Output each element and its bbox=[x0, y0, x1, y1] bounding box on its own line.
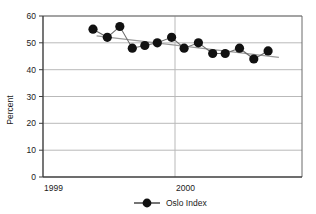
data-point bbox=[235, 44, 244, 53]
data-point bbox=[103, 33, 112, 42]
data-point bbox=[208, 49, 217, 58]
y-tick-labels: 60 50 40 30 20 10 0 bbox=[27, 11, 37, 182]
oslo-index-chart: 60 50 40 30 20 10 0 Percent 1999 2000 bbox=[0, 0, 316, 214]
data-point bbox=[221, 49, 230, 58]
data-point bbox=[180, 44, 189, 53]
data-point bbox=[88, 25, 97, 34]
y-tick-label-50: 50 bbox=[27, 38, 37, 48]
data-point bbox=[140, 41, 149, 50]
y-tick-label-20: 20 bbox=[27, 118, 37, 128]
y-tick-label-10: 10 bbox=[27, 145, 37, 155]
chart-canvas: 60 50 40 30 20 10 0 Percent 1999 2000 bbox=[0, 0, 316, 214]
data-point bbox=[264, 46, 273, 55]
x-tick-label-1999: 1999 bbox=[44, 183, 63, 193]
x-tick-label-2000: 2000 bbox=[176, 183, 195, 193]
data-point bbox=[153, 38, 162, 47]
data-point bbox=[167, 33, 176, 42]
legend: Oslo Index bbox=[134, 198, 207, 208]
data-point bbox=[194, 38, 203, 47]
legend-marker-icon bbox=[143, 199, 152, 208]
y-tick-label-40: 40 bbox=[27, 65, 37, 75]
data-point bbox=[128, 44, 137, 53]
y-tick-label-0: 0 bbox=[31, 172, 36, 182]
data-point bbox=[115, 22, 124, 31]
y-tick-label-30: 30 bbox=[27, 92, 37, 102]
y-axis-title: Percent bbox=[5, 95, 15, 125]
data-point bbox=[249, 54, 258, 63]
legend-label-oslo-index: Oslo Index bbox=[166, 198, 207, 208]
y-tick-label-60: 60 bbox=[27, 11, 37, 21]
